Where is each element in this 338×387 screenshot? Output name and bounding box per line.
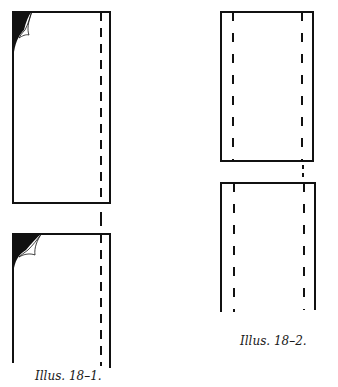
illus-18-2-top-panel — [221, 12, 313, 161]
illus-18-1-figure — [12, 11, 110, 368]
caption-illus-18-2: Illus. 18–2. — [240, 334, 307, 348]
illus-18-2-figure — [221, 12, 315, 312]
folded-corner-icon — [12, 11, 32, 52]
illus-18-1-bottom-panel — [12, 233, 110, 368]
panel-outline — [13, 12, 110, 203]
illus-18-1-top-panel — [12, 11, 110, 203]
sewing-diagram — [0, 0, 338, 387]
illus-18-2-bottom-panel — [221, 183, 315, 312]
panel-outline — [221, 183, 315, 312]
caption-illus-18-1: Illus. 18–1. — [35, 369, 102, 383]
panel-outline — [221, 12, 313, 161]
